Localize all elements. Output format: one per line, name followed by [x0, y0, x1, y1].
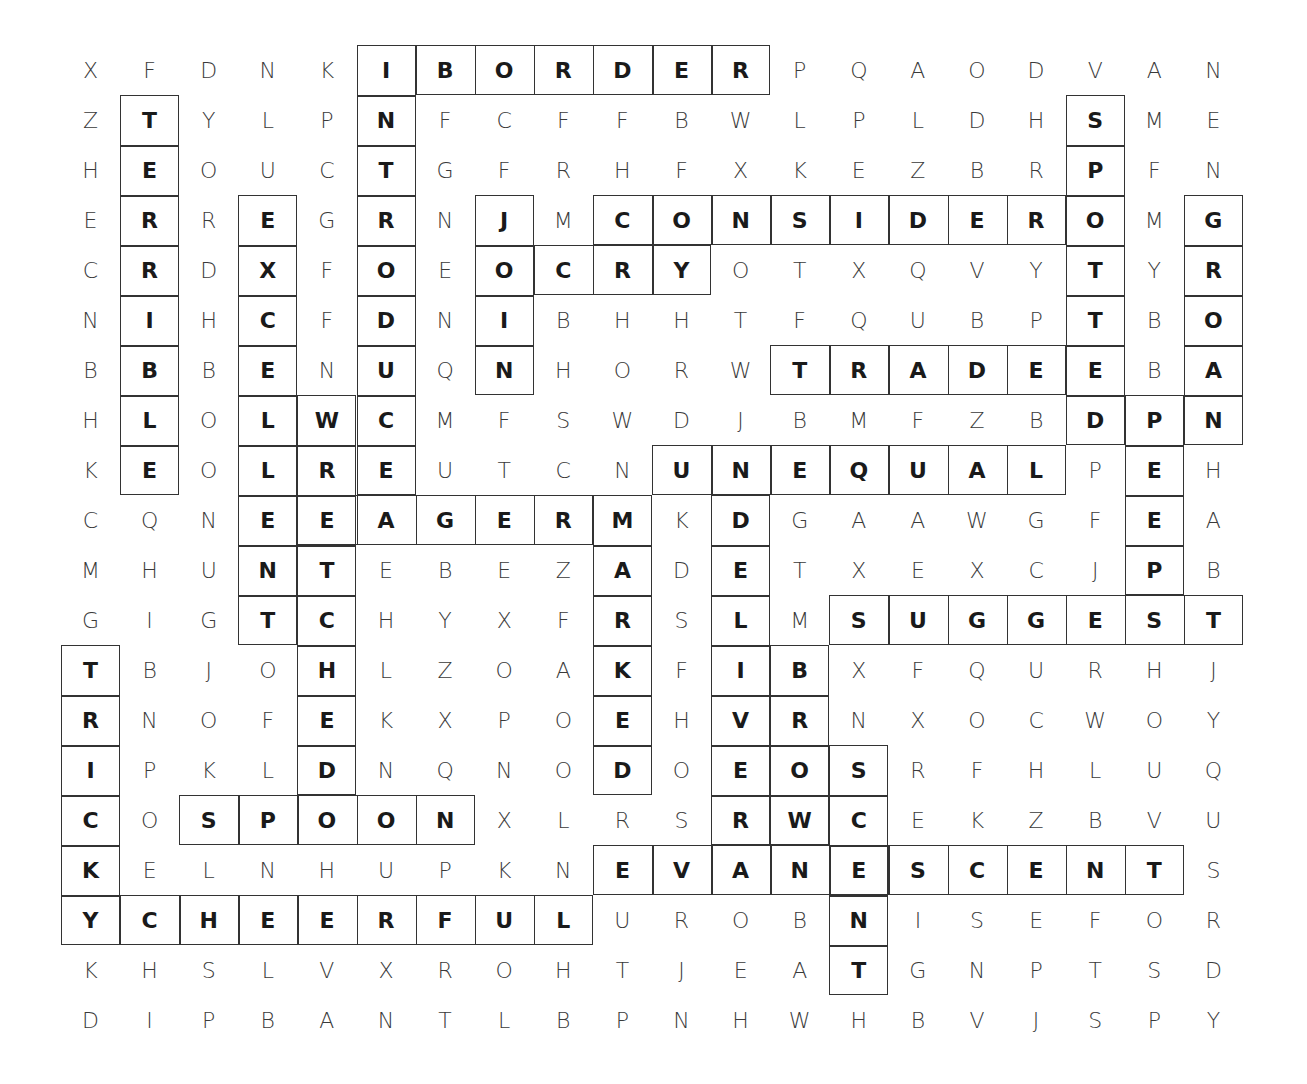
grid-cell[interactable]: N [1184, 45, 1243, 95]
grid-cell[interactable]: E [297, 495, 356, 545]
grid-cell[interactable]: S [829, 595, 888, 645]
grid-cell[interactable]: A [829, 495, 888, 545]
grid-cell[interactable]: V [1125, 795, 1184, 845]
grid-cell[interactable]: R [357, 195, 416, 245]
grid-cell[interactable]: H [593, 145, 652, 195]
grid-cell[interactable]: N [711, 195, 770, 245]
grid-cell[interactable]: J [1066, 545, 1125, 595]
grid-cell[interactable]: S [1066, 995, 1125, 1045]
grid-cell[interactable]: F [238, 695, 297, 745]
grid-cell[interactable]: N [948, 945, 1007, 995]
grid-cell[interactable]: P [179, 995, 238, 1045]
grid-cell[interactable]: G [948, 595, 1007, 645]
grid-cell[interactable]: E [357, 545, 416, 595]
grid-cell[interactable]: K [948, 795, 1007, 845]
grid-cell[interactable]: E [1066, 595, 1125, 645]
grid-cell[interactable]: R [297, 445, 356, 495]
grid-cell[interactable]: H [120, 545, 179, 595]
grid-cell[interactable]: D [711, 495, 770, 545]
grid-cell[interactable]: V [652, 845, 711, 895]
grid-cell[interactable]: M [1125, 195, 1184, 245]
grid-cell[interactable]: X [416, 695, 475, 745]
grid-cell[interactable]: R [534, 45, 593, 95]
grid-cell[interactable]: E [475, 545, 534, 595]
grid-cell[interactable]: N [829, 895, 888, 945]
grid-cell[interactable]: M [534, 195, 593, 245]
grid-cell[interactable]: P [1125, 545, 1184, 595]
grid-cell[interactable]: K [297, 45, 356, 95]
grid-cell[interactable]: U [652, 445, 711, 495]
grid-cell[interactable]: R [888, 745, 947, 795]
grid-cell[interactable]: A [888, 495, 947, 545]
grid-cell[interactable]: F [475, 395, 534, 445]
grid-cell[interactable]: P [297, 95, 356, 145]
grid-cell[interactable]: U [593, 895, 652, 945]
grid-cell[interactable]: U [888, 445, 947, 495]
grid-cell[interactable]: I [61, 745, 120, 795]
grid-cell[interactable]: B [416, 45, 475, 95]
grid-cell[interactable]: E [652, 45, 711, 95]
grid-cell[interactable]: A [357, 495, 416, 545]
grid-cell[interactable]: B [888, 995, 947, 1045]
grid-cell[interactable]: A [711, 845, 770, 895]
grid-cell[interactable]: X [475, 795, 534, 845]
grid-cell[interactable]: Q [888, 245, 947, 295]
grid-cell[interactable]: U [888, 595, 947, 645]
grid-cell[interactable]: L [120, 395, 179, 445]
grid-cell[interactable]: A [593, 545, 652, 595]
grid-cell[interactable]: Y [416, 595, 475, 645]
grid-cell[interactable]: C [238, 295, 297, 345]
grid-cell[interactable]: S [652, 795, 711, 845]
grid-cell[interactable]: F [1066, 895, 1125, 945]
grid-cell[interactable]: X [829, 545, 888, 595]
grid-cell[interactable]: J [475, 195, 534, 245]
grid-cell[interactable]: E [1125, 445, 1184, 495]
grid-cell[interactable]: L [238, 945, 297, 995]
grid-cell[interactable]: P [1066, 145, 1125, 195]
grid-cell[interactable]: N [475, 345, 534, 395]
grid-cell[interactable]: S [534, 395, 593, 445]
grid-cell[interactable]: U [238, 145, 297, 195]
grid-cell[interactable]: C [61, 495, 120, 545]
grid-cell[interactable]: C [297, 145, 356, 195]
grid-cell[interactable]: T [475, 445, 534, 495]
grid-cell[interactable]: Q [416, 745, 475, 795]
grid-cell[interactable]: X [357, 945, 416, 995]
grid-cell[interactable]: O [652, 745, 711, 795]
grid-cell[interactable]: U [357, 345, 416, 395]
grid-cell[interactable]: C [297, 595, 356, 645]
grid-cell[interactable]: D [593, 745, 652, 795]
grid-cell[interactable]: Y [1184, 995, 1243, 1045]
grid-cell[interactable]: R [534, 145, 593, 195]
grid-cell[interactable]: T [1125, 845, 1184, 895]
grid-cell[interactable]: H [297, 645, 356, 695]
grid-cell[interactable]: E [120, 845, 179, 895]
grid-cell[interactable]: L [238, 95, 297, 145]
grid-cell[interactable]: S [829, 745, 888, 795]
grid-cell[interactable]: O [475, 945, 534, 995]
grid-cell[interactable]: N [593, 445, 652, 495]
grid-cell[interactable]: R [770, 695, 829, 745]
grid-cell[interactable]: B [652, 95, 711, 145]
grid-cell[interactable]: E [238, 895, 297, 945]
grid-cell[interactable]: W [297, 395, 356, 445]
grid-cell[interactable]: A [888, 345, 947, 395]
grid-cell[interactable]: X [948, 545, 1007, 595]
grid-cell[interactable]: N [357, 995, 416, 1045]
grid-cell[interactable]: I [888, 895, 947, 945]
grid-cell[interactable]: E [238, 195, 297, 245]
grid-cell[interactable]: U [1125, 745, 1184, 795]
grid-cell[interactable]: U [888, 295, 947, 345]
grid-cell[interactable]: O [297, 795, 356, 845]
grid-cell[interactable]: M [61, 545, 120, 595]
grid-cell[interactable]: S [1184, 845, 1243, 895]
grid-cell[interactable]: E [1007, 845, 1066, 895]
grid-cell[interactable]: I [120, 995, 179, 1045]
grid-cell[interactable]: O [1125, 895, 1184, 945]
grid-cell[interactable]: B [1184, 545, 1243, 595]
grid-cell[interactable]: N [238, 545, 297, 595]
grid-cell[interactable]: A [888, 45, 947, 95]
grid-cell[interactable]: R [829, 345, 888, 395]
grid-cell[interactable]: L [475, 995, 534, 1045]
grid-cell[interactable]: R [1184, 245, 1243, 295]
